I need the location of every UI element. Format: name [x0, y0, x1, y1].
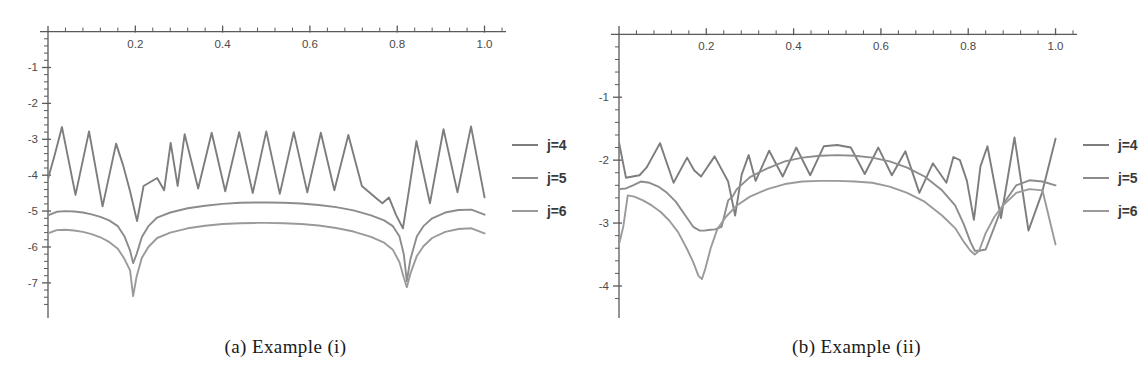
legend-swatch-j4 [512, 144, 538, 146]
legend-label-j6: j=6 [1118, 203, 1137, 219]
legend-swatch-j6 [512, 210, 538, 212]
svg-text:-1: -1 [599, 91, 609, 103]
svg-text:-5: -5 [28, 205, 38, 217]
legend-label-j5: j=5 [547, 170, 566, 186]
svg-text:-7: -7 [28, 277, 38, 289]
legend-label-j5: j=5 [1118, 170, 1137, 186]
svg-text:-2: -2 [599, 154, 609, 166]
svg-text:-1: -1 [28, 61, 38, 73]
svg-text:-2: -2 [28, 97, 38, 109]
legend-item: j=4 [1083, 128, 1137, 161]
legend-item: j=5 [1083, 161, 1137, 194]
svg-text:-4: -4 [28, 169, 39, 181]
svg-text:0.8: 0.8 [960, 40, 976, 52]
svg-text:1.0: 1.0 [1048, 40, 1064, 52]
panel-example-ii: 0.20.40.60.81.0-1-2-3-4 j=4 j=5 j=6 (b) … [571, 0, 1142, 372]
svg-text:0.6: 0.6 [302, 38, 318, 50]
legend-label-j6: j=6 [547, 203, 566, 219]
plot-example-i: 0.20.40.60.81.0-1-2-3-4-5-6-7 [8, 20, 508, 320]
legend-example-ii: j=4 j=5 j=6 [1083, 128, 1137, 227]
svg-text:0.8: 0.8 [389, 38, 405, 50]
svg-text:0.4: 0.4 [215, 38, 232, 50]
legend-example-i: j=4 j=5 j=6 [512, 128, 566, 227]
svg-text:1.0: 1.0 [477, 38, 493, 50]
caption-example-i: (a) Example (i) [0, 336, 571, 358]
svg-text:-3: -3 [28, 133, 38, 145]
legend-item: j=4 [512, 128, 566, 161]
legend-item: j=6 [1083, 194, 1137, 227]
figure-container: 0.20.40.60.81.0-1-2-3-4-5-6-7 j=4 j=5 j=… [0, 0, 1143, 372]
svg-text:0.2: 0.2 [127, 38, 143, 50]
svg-text:0.4: 0.4 [786, 40, 803, 52]
legend-swatch-j6 [1083, 210, 1109, 212]
legend-item: j=6 [512, 194, 566, 227]
svg-text:0.2: 0.2 [698, 40, 714, 52]
svg-text:-6: -6 [28, 241, 38, 253]
plot-example-ii: 0.20.40.60.81.0-1-2-3-4 [579, 20, 1079, 320]
panel-example-i: 0.20.40.60.81.0-1-2-3-4-5-6-7 j=4 j=5 j=… [0, 0, 571, 372]
svg-text:-4: -4 [599, 280, 610, 292]
legend-item: j=5 [512, 161, 566, 194]
caption-example-ii: (b) Example (ii) [571, 336, 1142, 358]
legend-swatch-j5 [1083, 177, 1109, 179]
legend-swatch-j5 [512, 177, 538, 179]
legend-label-j4: j=4 [547, 137, 566, 153]
legend-label-j4: j=4 [1118, 137, 1137, 153]
svg-text:0.6: 0.6 [873, 40, 889, 52]
legend-swatch-j4 [1083, 144, 1109, 146]
svg-text:-3: -3 [599, 217, 609, 229]
